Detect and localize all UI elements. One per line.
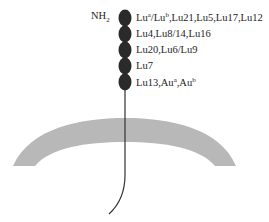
label-part: Lu7	[136, 60, 153, 71]
label-part: Lu20,Lu6/Lu9	[136, 44, 198, 55]
domain-label-1: Lua/Lub,Lu21,Lu5,Lu17,Lu12	[136, 12, 263, 24]
label-part: Lu	[136, 12, 148, 23]
label-part: ,Au	[177, 77, 192, 88]
domain-label-5: Lu13,Aua,Aub	[136, 77, 196, 89]
domain-label-4: Lu7	[136, 60, 153, 72]
label-part: ,Lu21,Lu5,Lu17,Lu12	[169, 12, 263, 23]
protein-diagram	[0, 0, 269, 222]
domain-label-2: Lu4,Lu8/14,Lu16	[136, 28, 211, 40]
terminus-subscript: 2	[106, 16, 110, 24]
domain-bead-2	[119, 26, 132, 43]
label-sup: b	[192, 76, 196, 84]
label-part: Lu13,Au	[136, 77, 174, 88]
label-part: /Lu	[151, 12, 166, 23]
domain-bead-1	[119, 10, 132, 27]
domain-bead-5	[119, 74, 132, 91]
terminus-text: NH	[91, 10, 106, 21]
label-part: Lu4,Lu8/14,Lu16	[136, 28, 211, 39]
domain-bead-3	[119, 42, 132, 59]
nh2-terminus-label: NH2	[91, 10, 110, 21]
domain-label-3: Lu20,Lu6/Lu9	[136, 44, 198, 56]
domain-bead-4	[119, 58, 132, 75]
transmembrane-stalk	[109, 88, 125, 214]
